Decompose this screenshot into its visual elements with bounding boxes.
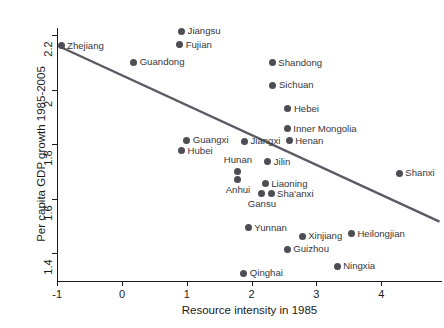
data-point-marker [264, 158, 271, 165]
data-point-label: Qinghai [250, 268, 283, 278]
data-point-marker [262, 180, 269, 187]
x-tick-label: 1 [175, 288, 199, 300]
plot-area: 1.41.61.822.2 -101234 ZhejiangJiangsuFuj… [0, 0, 444, 328]
data-point-label: Sichuan [279, 80, 314, 90]
data-point-label: Hubei [188, 146, 213, 156]
data-point-marker [234, 176, 241, 183]
data-point-label: Shandong [278, 58, 322, 68]
data-point-marker [348, 230, 355, 237]
data-point-marker [176, 41, 183, 48]
data-point-label: Zhejiang [67, 41, 104, 51]
data-point-label: Shanxi [405, 168, 434, 178]
data-point-label: Xinjiang [308, 231, 342, 241]
x-axis-line [57, 281, 442, 282]
x-tick-mark [381, 281, 382, 286]
x-tick-mark [187, 281, 188, 286]
data-point-marker [396, 170, 403, 177]
x-axis-title: Resource intensity in 1985 [57, 304, 442, 316]
data-point-label: Yunnan [254, 223, 287, 233]
data-point-marker [241, 138, 248, 145]
data-point-marker [234, 168, 241, 175]
data-point-marker [268, 190, 275, 197]
data-point-marker [258, 190, 265, 197]
data-point-label: Guandong [140, 57, 185, 67]
data-point-marker [299, 233, 306, 240]
data-point-marker [284, 125, 291, 132]
data-point-label: Jilin [274, 157, 291, 167]
data-point-marker [178, 147, 185, 154]
data-point-label: Heilongjian [357, 229, 404, 239]
data-point-label: Guizhou [293, 244, 329, 254]
data-point-label: Guangxi [193, 135, 229, 145]
x-tick-label: -1 [45, 288, 69, 300]
data-point-marker [286, 137, 293, 144]
x-tick-mark [316, 281, 317, 286]
x-tick-label: 3 [304, 288, 328, 300]
data-point-label: Jiangsu [188, 26, 221, 36]
scatter-plot-figure: 1.41.61.822.2 -101234 ZhejiangJiangsuFuj… [0, 0, 444, 328]
x-tick-label: 0 [110, 288, 134, 300]
x-tick-label: 4 [369, 288, 393, 300]
data-point-label: Inner Mongolia [293, 124, 356, 134]
data-point-marker [334, 263, 341, 270]
y-axis-title: Per capita GDP growth 1985-2005 [35, 34, 47, 274]
x-tick-mark [252, 281, 253, 286]
data-point-marker [130, 59, 137, 66]
data-point-label: Jiangxi [250, 136, 280, 146]
x-tick-label: 2 [240, 288, 264, 300]
y-axis-line [57, 28, 58, 281]
data-point-label: Anhui [226, 185, 251, 195]
x-tick-mark [57, 281, 58, 286]
data-point-marker [178, 28, 185, 35]
data-point-label: Sha'anxi [277, 189, 314, 199]
x-tick-mark [122, 281, 123, 286]
data-point-label: Henan [295, 136, 323, 146]
data-point-label: Ningxia [343, 261, 375, 271]
data-point-label: Hunan [224, 155, 252, 165]
data-point-marker [269, 59, 276, 66]
data-point-marker [245, 224, 252, 231]
data-point-marker [284, 246, 291, 253]
data-point-marker [269, 82, 276, 89]
data-point-marker [183, 137, 190, 144]
data-point-marker [58, 42, 65, 49]
data-point-label: Hebei [294, 104, 319, 114]
data-point-label: Gansu [248, 199, 276, 209]
data-point-label: Fujian [186, 40, 212, 50]
data-point-marker [284, 105, 291, 112]
data-point-marker [240, 270, 247, 277]
